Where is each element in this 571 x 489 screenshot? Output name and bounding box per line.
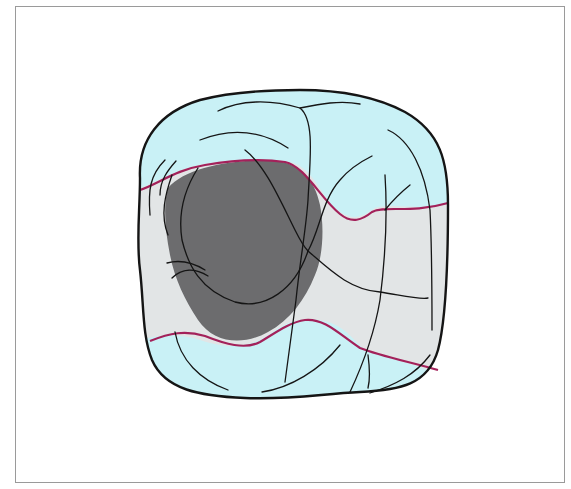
- tooth-diagram: [0, 0, 571, 489]
